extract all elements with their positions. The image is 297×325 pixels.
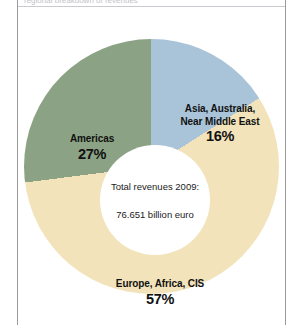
donut-chart: Total revenues 2009: 76.651 billion euro… [18, 30, 285, 325]
slice-value-asia: 16% [158, 130, 282, 143]
donut-center-text: Total revenues 2009: 76.651 billion euro [100, 145, 210, 255]
clipped-caption-text: regional breakdown of revenues [24, 0, 264, 5]
panel-right-rule [285, 0, 286, 325]
slice-name-europe: Europe, Africa, CIS [80, 278, 240, 291]
total-revenues-label: Total revenues 2009: [111, 181, 199, 192]
figure-panel: regional breakdown of revenues Total rev… [0, 0, 297, 325]
slice-value-americas: 27% [44, 148, 140, 161]
panel-top-rule [18, 6, 285, 7]
total-revenues-value: 76.651 billion euro [116, 209, 194, 220]
slice-name-americas: Americas [44, 133, 140, 146]
slice-value-europe: 57% [80, 293, 240, 306]
slice-name-asia-line1: Asia, Australia, [158, 103, 282, 116]
slice-name-asia-line2: Near Middle East [158, 116, 282, 129]
slice-label-europe: Europe, Africa, CIS 57% [80, 278, 240, 305]
slice-label-americas: Americas 27% [44, 133, 140, 160]
slice-label-asia: Asia, Australia, Near Middle East 16% [158, 103, 282, 143]
